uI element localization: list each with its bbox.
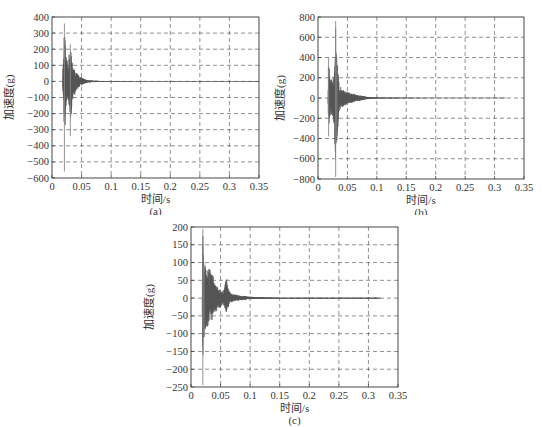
y-tick-labels: 4003002001000−100−200−300−400−500−600 [27, 12, 55, 184]
chart-c-svg: 00.050.10.150.20.250.30.35200150100500−5… [140, 212, 411, 427]
svg-text:600: 600 [299, 32, 315, 43]
svg-text:−400: −400 [27, 140, 49, 151]
svg-text:−500: −500 [27, 156, 49, 167]
svg-text:−100: −100 [27, 92, 49, 103]
panel-caption: (b) [415, 206, 428, 215]
svg-text:0.35: 0.35 [250, 181, 268, 192]
x-axis-label: 时间/s [280, 402, 309, 414]
svg-text:0.05: 0.05 [338, 182, 356, 193]
svg-text:0.2: 0.2 [429, 182, 442, 193]
svg-text:400: 400 [33, 12, 49, 23]
svg-text:−600: −600 [27, 173, 49, 184]
svg-text:−300: −300 [27, 124, 49, 135]
svg-text:50: 50 [178, 275, 189, 286]
svg-text:0.25: 0.25 [330, 390, 348, 401]
svg-text:0.3: 0.3 [488, 182, 501, 193]
svg-text:−200: −200 [293, 113, 315, 124]
svg-text:0: 0 [188, 390, 193, 401]
svg-text:0.2: 0.2 [164, 181, 177, 192]
svg-text:0.15: 0.15 [132, 181, 150, 192]
svg-text:0: 0 [310, 93, 315, 104]
chart-panel-a: 00.050.10.150.20.250.30.354003002001000−… [0, 0, 271, 215]
svg-text:300: 300 [33, 28, 49, 39]
panel-caption: (c) [288, 414, 301, 427]
svg-text:0.1: 0.1 [370, 182, 383, 193]
svg-text:−100: −100 [166, 328, 188, 339]
y-tick-labels: 200150100500−50−100−150−200−250 [166, 222, 194, 393]
y-axis-label: 加速度(g) [2, 74, 16, 120]
svg-text:100: 100 [33, 60, 49, 71]
svg-text:−50: −50 [172, 310, 188, 321]
svg-text:0: 0 [315, 182, 320, 193]
svg-text:0.1: 0.1 [105, 181, 118, 192]
svg-text:−400: −400 [293, 133, 315, 144]
svg-text:0.25: 0.25 [456, 182, 474, 193]
svg-text:200: 200 [299, 72, 315, 83]
svg-text:0.25: 0.25 [191, 181, 209, 192]
svg-text:−600: −600 [293, 153, 315, 164]
svg-text:−200: −200 [27, 108, 49, 119]
svg-text:0: 0 [44, 76, 49, 87]
chart-b-svg: 00.050.10.150.20.250.30.358006004002000−… [271, 0, 542, 215]
y-axis-label: 加速度(g) [142, 284, 156, 330]
svg-text:−250: −250 [166, 382, 188, 393]
svg-text:0.1: 0.1 [244, 390, 257, 401]
y-axis-label: 加速度(g) [273, 75, 287, 121]
svg-text:200: 200 [33, 44, 49, 55]
svg-text:0: 0 [49, 181, 54, 192]
svg-text:0.35: 0.35 [389, 390, 407, 401]
chart-a-svg: 00.050.10.150.20.250.30.354003002001000−… [0, 0, 271, 215]
chart-panel-c: 00.050.10.150.20.250.30.35200150100500−5… [140, 212, 411, 427]
svg-text:0.15: 0.15 [397, 182, 415, 193]
svg-text:200: 200 [172, 222, 188, 233]
svg-text:150: 150 [172, 239, 188, 250]
svg-text:0.05: 0.05 [211, 390, 229, 401]
svg-text:0.2: 0.2 [303, 390, 316, 401]
svg-text:0.3: 0.3 [362, 390, 375, 401]
svg-text:−150: −150 [166, 346, 188, 357]
svg-text:0.3: 0.3 [223, 181, 236, 192]
y-tick-labels: 8006004002000−200−400−600−800 [293, 12, 321, 185]
plot-area [191, 227, 398, 387]
svg-text:100: 100 [172, 257, 188, 268]
svg-text:0: 0 [183, 293, 188, 304]
svg-text:400: 400 [299, 52, 315, 63]
chart-panel-b: 00.050.10.150.20.250.30.358006004002000−… [271, 0, 542, 215]
svg-text:−800: −800 [293, 174, 315, 185]
svg-text:0.05: 0.05 [72, 181, 90, 192]
x-axis-label: 时间/s [406, 194, 435, 206]
svg-text:800: 800 [299, 12, 315, 23]
svg-text:0.35: 0.35 [515, 182, 533, 193]
svg-text:−200: −200 [166, 364, 188, 375]
x-axis-label: 时间/s [141, 193, 170, 205]
svg-text:0.15: 0.15 [271, 390, 289, 401]
